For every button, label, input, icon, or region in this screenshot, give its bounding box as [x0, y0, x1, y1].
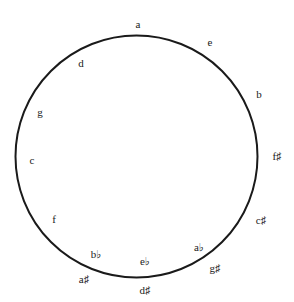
note-label: g♯ — [210, 263, 221, 274]
note-label: d — [78, 58, 84, 69]
note-label: a♯ — [79, 274, 89, 285]
note-label: a♭ — [194, 242, 204, 253]
note-label: g — [37, 107, 43, 118]
note-label: b — [256, 89, 262, 100]
note-label: c♯ — [256, 215, 266, 226]
note-label: d♯ — [140, 285, 151, 296]
note-label: e♭ — [140, 256, 150, 267]
note-label: c — [30, 155, 35, 166]
note-label: b♭ — [91, 249, 102, 260]
note-label: f♯ — [272, 151, 281, 162]
circle-of-fifths-diagram: aedbgcf♯fc♯a♭b♭e♭g♯a♯d♯ — [0, 0, 294, 302]
note-label: f — [52, 214, 56, 225]
note-label: e — [208, 37, 213, 48]
note-label: a — [136, 19, 141, 30]
